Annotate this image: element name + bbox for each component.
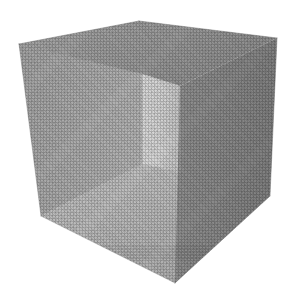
face-back-inner	[142, 74, 180, 172]
open-cube-illustration	[0, 0, 294, 307]
figure-canvas	[0, 0, 294, 307]
cube-faces	[19, 21, 277, 283]
